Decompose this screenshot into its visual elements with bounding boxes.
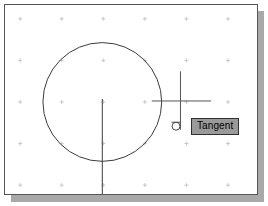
tangent-tooltip: Tangent [191, 118, 239, 135]
grid-dot [226, 17, 230, 21]
tangent-snap-marker [172, 122, 181, 130]
grid-dot [60, 183, 64, 187]
grid-dot [60, 100, 64, 104]
grid-dot [184, 183, 188, 187]
grid-dot [226, 100, 230, 104]
cad-drawing-window[interactable]: Tangent [4, 4, 258, 195]
grid-dot [101, 58, 105, 62]
grid-dot [226, 58, 230, 62]
grid-dot [60, 17, 64, 21]
grid-dot [226, 142, 230, 146]
grid-dot [184, 58, 188, 62]
grid-dot [18, 17, 22, 21]
grid-dot [143, 17, 147, 21]
grid-dot [18, 58, 22, 62]
grid-dot [18, 183, 22, 187]
tangent-marker-circle [172, 122, 180, 130]
grid-dot [143, 183, 147, 187]
grid-dot [18, 100, 22, 104]
grid-dot [101, 17, 105, 21]
grid-layer [18, 17, 230, 187]
drawing-canvas[interactable] [5, 5, 257, 194]
grid-dot [143, 100, 147, 104]
grid-dot [184, 17, 188, 21]
grid-dot [184, 142, 188, 146]
grid-dot [18, 142, 22, 146]
screenshot-root: Tangent [0, 0, 268, 206]
grid-dot [226, 183, 230, 187]
